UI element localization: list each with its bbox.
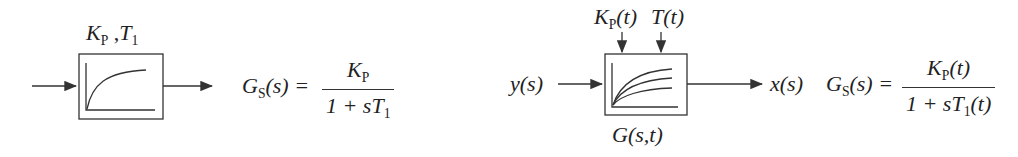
block-label: G(s,t) [612, 124, 663, 146]
kp-t-param-label: KP(t) [594, 6, 637, 31]
left-block-box [79, 54, 163, 119]
right-formula-numerator: KP(t) [923, 55, 974, 87]
right-curve-1 [613, 69, 672, 105]
right-curve-3 [613, 88, 672, 105]
right-formula-lhs: GS(s) = [826, 73, 893, 98]
right-block-box [605, 54, 687, 115]
left-formula-numerator: KP [343, 57, 373, 89]
right-formula-fraction: KP(t) 1 + sT1(t) [902, 55, 995, 120]
output-label: x(s) [770, 73, 803, 95]
left-formula-lhs: GS(s) = [242, 75, 309, 100]
left-params-label: KP ,T1 [86, 22, 138, 47]
right-formula-denominator: 1 + sT1(t) [902, 87, 995, 120]
right-transfer-block [558, 32, 762, 115]
left-formula-fraction: KP 1 + sT1 [322, 57, 394, 122]
t-t-param-label: T(t) [651, 6, 684, 28]
left-transfer-block [32, 54, 212, 119]
input-label: y(s) [510, 73, 543, 95]
left-formula-denominator: 1 + sT1 [322, 89, 394, 122]
left-step-curve [87, 70, 146, 109]
